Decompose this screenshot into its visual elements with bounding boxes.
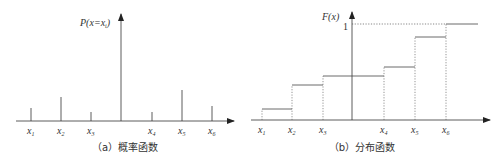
y-axis-label: F(x): [321, 11, 340, 23]
caption-a: （a）概率函数: [92, 141, 158, 153]
panel-b-distribution-function: F(x) 1 x1x2x3x4x5x6 （b）分布函数: [251, 11, 490, 153]
panel-a-probability-function: P(x=xi) x1x2x3x4x5x6 （a）概率函数: [16, 14, 234, 153]
x-tick-label: x1: [26, 125, 34, 137]
x-tick-label: x4: [379, 124, 387, 136]
x-tick-label: x3: [86, 125, 94, 137]
x-tick-label: x6: [207, 125, 215, 137]
x-tick-label: x6: [441, 124, 449, 136]
x-tick-label: x2: [287, 124, 295, 136]
x-tick-label: x4: [147, 125, 155, 137]
level-one-label: 1: [343, 21, 348, 32]
figure: P(x=xi) x1x2x3x4x5x6 （a）概率函数 F(x) 1 x1x2…: [0, 0, 500, 165]
x-tick-label: x5: [177, 125, 185, 137]
steps: x1x2x3x4x5x6: [257, 24, 478, 136]
y-axis-label: P(x=xi): [79, 17, 111, 29]
caption-b: （b）分布函数: [329, 141, 395, 153]
x-tick-label: x2: [56, 125, 64, 137]
x-tick-label: x3: [318, 124, 326, 136]
x-tick-label: x1: [257, 124, 265, 136]
x-tick-label: x5: [410, 124, 418, 136]
